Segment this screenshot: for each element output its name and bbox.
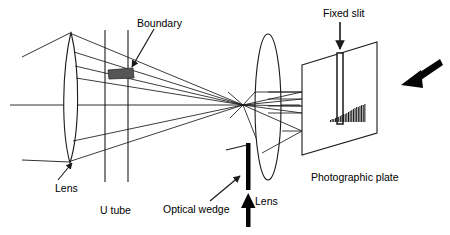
spectrum-fringe-bar bbox=[340, 116, 341, 122]
label-lens-left: Lens bbox=[55, 183, 78, 194]
spectrum-fringe-bar bbox=[359, 106, 360, 122]
incoming-beam-arrow bbox=[401, 59, 443, 88]
spectrum-fringe-bar bbox=[338, 117, 339, 122]
boundary-shade bbox=[108, 68, 134, 79]
spectrum-fringe-bar bbox=[353, 109, 354, 122]
diagram-canvas bbox=[0, 0, 450, 235]
spectrum-fringe-bar bbox=[350, 111, 351, 122]
spectrum-fringe-bar bbox=[335, 118, 336, 122]
spectrum-fringe-bar bbox=[351, 110, 352, 122]
label-photographic-plate: Photographic plate bbox=[311, 172, 399, 183]
spectrum-fringe-bar bbox=[345, 114, 346, 122]
ray-bundle-upper bbox=[72, 34, 243, 105]
spectrum-fringe-bar bbox=[332, 119, 333, 122]
label-lens-right: Lens bbox=[255, 196, 278, 207]
spectrum-fringe-bar bbox=[355, 108, 356, 122]
wedge-illumination-arrow bbox=[241, 193, 256, 227]
spectrum-fringe-bar bbox=[356, 107, 357, 122]
boundary-pointer-arrow bbox=[132, 29, 154, 67]
spectrum-fringe-bar bbox=[343, 114, 344, 122]
optical-wedge-pointer-arrow bbox=[210, 176, 240, 201]
ray-bundle-lower bbox=[71, 105, 243, 161]
spectrum-fringe-bar bbox=[330, 120, 331, 122]
ray-bundle-source bbox=[22, 33, 70, 162]
optical-wedge-bar bbox=[246, 143, 251, 190]
label-boundary: Boundary bbox=[137, 18, 182, 29]
optical-wedge-leader-line bbox=[210, 164, 248, 201]
optical-wedge-leader-upper bbox=[226, 145, 247, 150]
label-fixed-slit: Fixed slit bbox=[323, 8, 364, 19]
spectrum-fringe-bar bbox=[333, 119, 334, 122]
spectrum-fringe-bar bbox=[337, 117, 338, 122]
spectrum-fringe-bar bbox=[363, 105, 364, 122]
spectrum-fringe-bar bbox=[346, 113, 347, 122]
label-u-tube: U tube bbox=[100, 205, 131, 216]
lens-left-pointer-arrow bbox=[58, 163, 72, 180]
spectrum-fringe-bar bbox=[364, 104, 365, 122]
spectrum-fringe-bar bbox=[348, 112, 349, 122]
lens-left-shape bbox=[64, 32, 78, 163]
spectrum-fringe-bar bbox=[341, 115, 342, 122]
spectrum-fringe-bar bbox=[358, 107, 359, 122]
optical-diagram-figure: Boundary Fixed slit Lens U tube Optical … bbox=[0, 0, 450, 235]
fixed-slit-aperture bbox=[337, 53, 343, 124]
label-optical-wedge: Optical wedge bbox=[163, 204, 230, 215]
spectrum-fringe-bar bbox=[361, 105, 362, 122]
